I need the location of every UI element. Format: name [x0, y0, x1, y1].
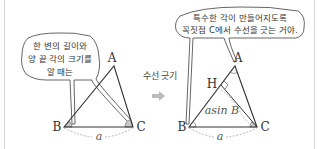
right-bubble-line-2: 꼭짓점 C에서 수선을 긋는 거야.	[182, 25, 297, 35]
right-angle-h-mark	[224, 81, 228, 89]
left-vertex-c-label: C	[136, 120, 145, 134]
left-panel: 한 변의 길이와 양 끝 각의 크기를 알 때는 A B C a	[22, 33, 146, 143]
transition: 수선 긋기	[143, 71, 178, 101]
left-vertex-a-label: A	[107, 51, 117, 65]
left-vertex-b-label: B	[53, 120, 62, 134]
right-bubble-line-1: 특수한 각이 만들어지도록	[193, 13, 286, 23]
diagram-canvas: 한 변의 길이와 양 끝 각의 크기를 알 때는 A B C a 수선 긋기	[0, 0, 317, 149]
left-bubble-line-2: 양 끝 각의 크기를	[28, 54, 92, 64]
left-bubble-line-1: 한 변의 길이와	[33, 41, 86, 51]
right-panel: 특수한 각이 만들어지도록 꼭짓점 C에서 수선을 긋는 거야. A H B C…	[176, 7, 305, 143]
right-arrow-icon	[152, 91, 165, 101]
right-vertex-a-label: A	[233, 51, 243, 65]
right-side-a-label: a	[217, 130, 224, 143]
step-label: 수선 긋기	[143, 71, 178, 81]
altitude-label: asin B	[205, 104, 239, 117]
left-bubble-line-3: 알 때는	[47, 67, 74, 77]
right-triangle	[189, 66, 257, 127]
left-side-a-label: a	[96, 130, 103, 143]
right-vertex-c-label: C	[260, 120, 269, 134]
right-angle-a-mark	[231, 73, 238, 74]
right-vertex-h-label: H	[207, 77, 217, 91]
right-vertex-b-label: B	[178, 120, 187, 134]
